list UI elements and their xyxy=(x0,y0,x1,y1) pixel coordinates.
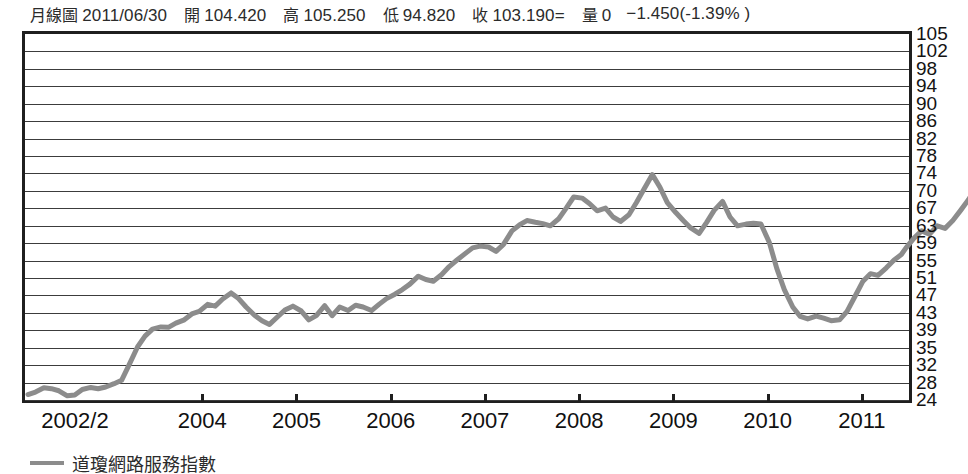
price-chart: 1051029894908682787470676359555147433935… xyxy=(0,0,968,474)
legend-swatch-icon xyxy=(30,461,64,465)
x-axis-tick xyxy=(201,394,204,403)
x-axis-label: 2011 xyxy=(838,408,885,434)
x-axis-label: 2008 xyxy=(555,408,604,434)
x-axis-label: 2010 xyxy=(743,408,792,434)
x-axis-label: 2002/2 xyxy=(41,408,108,434)
gridline xyxy=(25,400,909,401)
plot-area xyxy=(22,31,912,403)
series-path xyxy=(28,37,968,396)
x-axis-tick xyxy=(484,394,487,403)
x-axis-label: 2006 xyxy=(366,408,415,434)
y-axis-label: 24 xyxy=(916,390,937,409)
x-axis-label: 2005 xyxy=(272,408,321,434)
x-axis-tick xyxy=(672,394,675,403)
x-axis-tick xyxy=(578,394,581,403)
x-axis-tick xyxy=(390,394,393,403)
x-axis-tick xyxy=(861,394,864,403)
x-axis-tick xyxy=(295,394,298,403)
legend-series-label: 道瓊網路服務指數 xyxy=(72,452,216,474)
x-axis: 2002/220042005200620072008200920102011 xyxy=(0,408,968,438)
chart-legend: 道瓊網路服務指數 xyxy=(30,452,216,474)
x-axis-label: 2004 xyxy=(178,408,227,434)
x-axis-label: 2007 xyxy=(460,408,509,434)
x-axis-tick xyxy=(767,394,770,403)
series-line xyxy=(25,34,909,400)
x-axis-label: 2009 xyxy=(649,408,698,434)
y-axis: 1051029894908682787470676359555147433935… xyxy=(916,31,968,403)
